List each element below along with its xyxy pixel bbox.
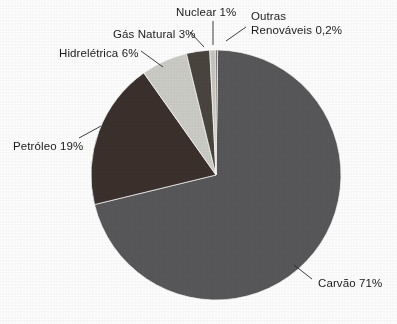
leader-line-carvao	[294, 265, 312, 279]
slice-label-outras-renovaveis: Outras Renováveis 0,2%	[251, 10, 342, 37]
slice-label-hidreletrica: Hidrelétrica 6%	[59, 47, 138, 61]
slice-label-petroleo: Petróleo 19%	[13, 140, 83, 154]
leader-line-outrasrenovaveis	[226, 27, 246, 41]
slice-label-gas-natural: Gás Natural 3%	[113, 28, 196, 42]
pie-chart-figure: Carvão 71% Petróleo 19% Hidrelétrica 6% …	[0, 0, 397, 324]
slice-label-nuclear: Nuclear 1%	[176, 6, 236, 20]
leader-line-hidreletrica	[141, 51, 163, 67]
pie-slice-group	[91, 50, 341, 300]
slice-label-carvao: Carvão 71%	[318, 277, 382, 291]
